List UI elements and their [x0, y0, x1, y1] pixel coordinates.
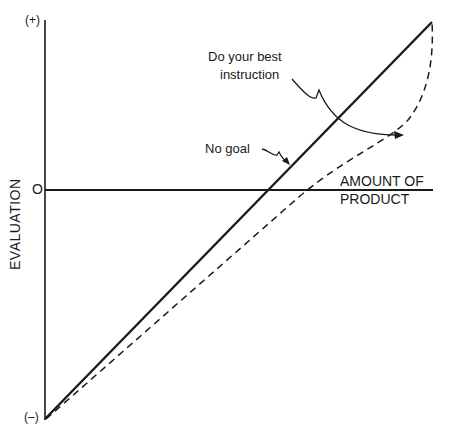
x-axis-title-line1: AMOUNT OF [340, 174, 424, 189]
y-axis-top-label: (+) [25, 13, 40, 28]
do-your-best-arrowhead-icon [394, 131, 404, 139]
diagram-canvas [0, 0, 450, 439]
y-axis-bottom-label: (–) [24, 410, 39, 425]
y-axis-title: EVALUATION [7, 178, 23, 270]
x-axis-title-line2: PRODUCT [340, 192, 409, 207]
do-your-best-pointer [292, 79, 397, 135]
do-your-best-label-line1: Do your best [208, 49, 282, 64]
y-axis-zero-label: O [32, 182, 43, 197]
do-your-best-label-line2: instruction [220, 67, 279, 82]
no-goal-label: No goal [205, 141, 250, 156]
